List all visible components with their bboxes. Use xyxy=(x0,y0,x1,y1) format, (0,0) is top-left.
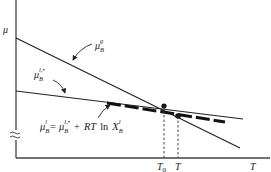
liquid-star-label-arrow-icon xyxy=(53,80,65,93)
raoult-equation: μBl=μBl,•+RTlnXBl xyxy=(39,118,123,134)
pure-liquid-curve-label: μBl,• xyxy=(33,66,45,82)
x-tick-t0: T0 xyxy=(157,161,167,172)
x-axis-label: T xyxy=(250,161,257,172)
gas-curve-label: μBg xyxy=(94,37,104,53)
pure-liquid-chemical-potential-line xyxy=(16,91,243,119)
equation-arrow-icon xyxy=(98,105,110,118)
y-axis-label: μ xyxy=(2,24,8,35)
x-tick-t: T xyxy=(175,161,182,172)
axis-break-icon xyxy=(10,130,21,140)
gas-label-arrow-icon xyxy=(73,44,92,60)
phase-diagram: μ μBg μBl,• μBl=μBl,•+RTlnXBl T0 T T xyxy=(0,0,271,172)
